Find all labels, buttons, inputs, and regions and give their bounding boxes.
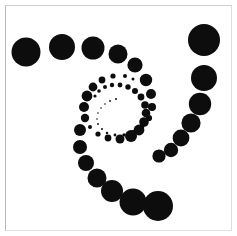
spiral-marker	[97, 89, 101, 93]
spiral-marker	[138, 94, 145, 101]
spiral-marker	[123, 74, 127, 78]
spiral-marker	[93, 94, 96, 97]
spiral-marker	[115, 98, 117, 100]
spiral-marker	[118, 83, 123, 88]
spiral-marker	[120, 189, 147, 216]
spiral-marker	[132, 78, 135, 81]
spiral-marker	[125, 84, 130, 89]
spiral-marker	[104, 103, 106, 105]
spiral-marker	[140, 74, 152, 86]
spiral-marker	[191, 65, 217, 91]
spiral-marker	[103, 85, 107, 89]
spiral-marker	[49, 34, 75, 60]
spiral-marker	[82, 91, 93, 102]
figure-root	[0, 0, 237, 236]
spiral-marker	[96, 118, 98, 120]
spiral-marker	[106, 132, 108, 134]
spiral-marker	[142, 109, 151, 118]
spiral-marker	[89, 83, 98, 92]
spiral-marker	[141, 101, 149, 109]
spiral-marker	[78, 155, 94, 171]
marker-group	[12, 24, 221, 221]
spiral-marker	[181, 113, 200, 132]
spiral-marker	[188, 24, 220, 56]
spiral-marker	[164, 143, 178, 157]
spiral-marker	[82, 37, 105, 60]
spiral-marker	[132, 88, 138, 94]
spiral-marker	[125, 130, 137, 142]
spiral-marker	[101, 180, 123, 202]
spiral-marker	[148, 103, 156, 111]
spiral-marker	[173, 130, 190, 147]
spiral-marker	[105, 135, 112, 142]
spiral-marker	[152, 149, 165, 162]
spiral-marker	[100, 107, 102, 109]
spiral-marker	[97, 123, 99, 125]
spiral-marker	[116, 135, 125, 144]
spiral-marker	[109, 45, 128, 64]
spiral-marker	[143, 191, 173, 221]
spiral-marker	[101, 128, 103, 130]
spiral-marker	[74, 124, 86, 136]
spiral-marker	[99, 77, 106, 84]
spiral-marker	[95, 131, 100, 136]
spiral-scatter-plot	[0, 0, 237, 236]
spiral-marker	[146, 89, 156, 99]
spiral-marker	[189, 93, 211, 115]
spiral-marker	[114, 134, 117, 137]
spiral-marker	[79, 102, 89, 112]
spiral-marker	[73, 140, 87, 154]
spiral-marker	[127, 57, 142, 72]
spiral-marker	[12, 38, 41, 67]
spiral-marker	[110, 83, 114, 87]
spiral-marker	[110, 73, 115, 78]
spiral-marker	[81, 114, 89, 122]
spiral-marker	[109, 100, 111, 102]
spiral-marker	[97, 112, 99, 114]
spiral-marker	[88, 125, 92, 129]
